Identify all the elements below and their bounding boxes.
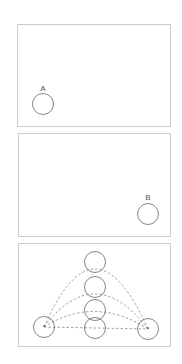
panel-frame [18,25,171,127]
label-b: B [145,193,150,202]
panel-a: A [18,25,171,127]
start-dot [43,325,45,327]
panel-frame [19,134,171,237]
panel-frame [19,244,171,347]
label-a: A [40,84,46,93]
end-dot [147,327,149,329]
panel-b: B [19,134,171,237]
panel-paths [19,244,171,347]
diagram: A B [0,0,182,364]
